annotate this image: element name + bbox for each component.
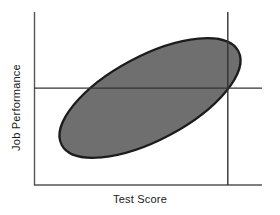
y-axis-label: Job Performance (11, 0, 25, 215)
scatterplot-figure: Job Performance Test Score (0, 0, 280, 215)
plot-canvas (0, 0, 280, 215)
x-axis-label: Test Score (0, 194, 280, 205)
data-cloud-ellipse (42, 14, 258, 182)
